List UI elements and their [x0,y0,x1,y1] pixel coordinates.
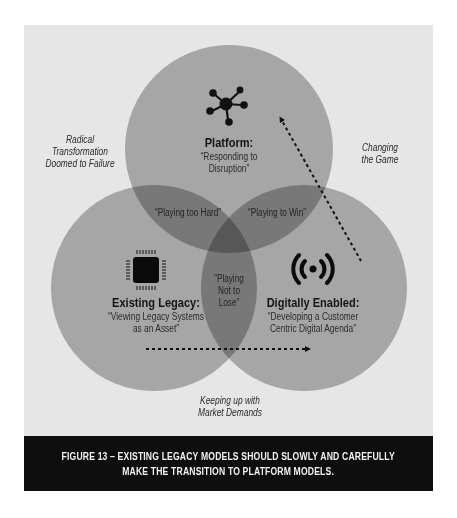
annotation-radical-line3: Doomed to Failure [44,157,116,169]
figure-caption: FIGURE 13 – EXISTING LEGACY MODELS SHOUL… [24,436,433,491]
platform-subtitle-line2: Disruption” [189,162,269,174]
platform-title: Platform: [187,136,272,150]
overlap-line3: Lose” [204,297,253,309]
annotation-changing-the-game: Changing the Game [345,141,415,165]
overlap-playing-too-hard: “Playing too Hard” [147,207,229,219]
existing-legacy-subtitle-line1: “Viewing Legacy Systems [108,310,204,322]
platform-subtitle-line1: “Responding to [189,150,269,162]
annotation-changing-line2: the Game [352,153,408,165]
overlap-line2: Not to [204,285,253,297]
overlap-playing-not-to-lose: “Playing Not to Lose” [199,273,259,309]
digitally-enabled-title: Digitally Enabled: [262,296,364,310]
annotation-changing-line1: Changing [352,141,408,153]
digitally-enabled-subtitle-line2: Centric Digital Agenda” [265,322,361,334]
digitally-enabled-subtitle-line1: “Developing a Customer [265,310,361,322]
existing-legacy-subtitle-line2: as an Asset” [108,322,204,334]
digitally-enabled-label: Digitally Enabled: “Developing a Custome… [253,296,373,334]
platform-label: Platform: “Responding to Disruption” [179,136,279,174]
caption-line2: MAKE THE TRANSITION TO PLATFORM MODELS. [123,464,335,479]
annotation-radical-transformation: Radical Transformation Doomed to Failure [35,133,125,169]
overlap-line1: “Playing [204,273,253,285]
annotation-radical-line1: Radical [44,133,116,145]
annotation-keeping-line2: Market Demands [194,406,266,418]
overlap-playing-to-win: “Playing to Win” [236,207,318,219]
annotation-keeping-line1: Keeping up with [194,394,266,406]
existing-legacy-label: Existing Legacy: “Viewing Legacy Systems… [96,296,216,334]
annotation-radical-line2: Transformation [44,145,116,157]
annotation-keeping-up: Keeping up with Market Demands [185,394,275,418]
existing-legacy-title: Existing Legacy: [105,296,207,310]
caption-line1: FIGURE 13 – EXISTING LEGACY MODELS SHOUL… [62,449,395,464]
